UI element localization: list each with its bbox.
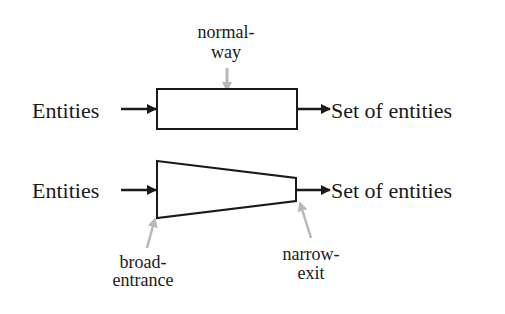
broad-entrance-label-line2: entrance	[113, 270, 174, 290]
narrow-exit-label-line1: narrow-	[283, 244, 340, 264]
normal-way-label-line1: normal-	[198, 22, 255, 42]
top-output-label: Set of entities	[331, 98, 452, 123]
normal-process-box	[157, 89, 297, 129]
bottom-output-label: Set of entities	[331, 178, 452, 203]
broad-entrance-label-line1: broad-	[120, 252, 167, 272]
narrow-exit-arrow-icon	[301, 206, 311, 238]
normal-way-label-line2: way	[211, 42, 241, 62]
narrow-exit-label-line2: exit	[298, 263, 325, 283]
broad-entrance-arrow-icon	[147, 222, 154, 248]
top-input-label: Entities	[32, 98, 99, 123]
funnel-process-shape	[157, 161, 296, 218]
diagram-canvas: normal- way Entities Set of entities Ent…	[0, 0, 505, 314]
bottom-input-label: Entities	[32, 178, 99, 203]
top-process: normal- way Entities Set of entities	[32, 22, 452, 129]
bottom-process: Entities Set of entities broad- entrance…	[32, 161, 452, 290]
